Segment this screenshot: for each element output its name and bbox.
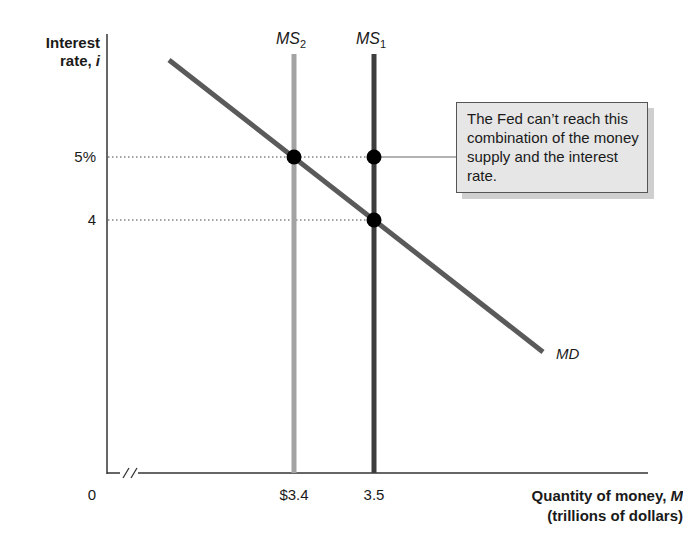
x-axis-label-line2: (trillions of dollars)	[400, 506, 683, 526]
y-tick-4: 4	[56, 211, 96, 229]
y-tick-5pct: 5%	[56, 148, 96, 166]
x-axis-label-text: Quantity of money,	[532, 487, 671, 504]
x-tick-3-5: 3.5	[349, 486, 399, 504]
point-ms1-md	[367, 213, 382, 228]
x-axis-label-line1: Quantity of money, M	[400, 486, 683, 506]
ms2-label-base: MS	[276, 30, 300, 47]
y-axis-label: Interest rate, i	[20, 10, 100, 70]
x-tick-3-4: $3.4	[269, 486, 319, 504]
point-unreachable	[367, 150, 382, 165]
y-axis-label-text: rate,	[60, 52, 96, 69]
ms2-label: MS2	[276, 30, 306, 50]
x-axis-label: Quantity of money, M (trillions of dolla…	[400, 486, 683, 526]
y-axis-label-line1: Interest	[20, 34, 100, 52]
md-label: MD	[556, 345, 579, 362]
ms1-label-base: MS	[356, 30, 380, 47]
ms2-label-sub: 2	[300, 38, 306, 50]
x-tick-0: 0	[67, 486, 117, 504]
callout-box: The Fed can’t reach this combination of …	[456, 102, 648, 193]
x-axis-label-var: M	[671, 487, 683, 504]
y-axis-label-var: i	[96, 52, 100, 69]
point-ms2-md	[287, 150, 302, 165]
ms1-label: MS1	[356, 30, 386, 50]
axis-break-icon	[120, 466, 138, 478]
y-axis-label-line2: rate, i	[20, 52, 100, 70]
ms1-label-sub: 1	[380, 38, 386, 50]
